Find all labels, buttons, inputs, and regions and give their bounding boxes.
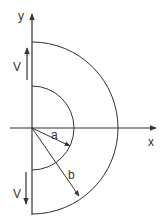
velocity-down-label: V bbox=[13, 187, 21, 201]
velocity-up-label: V bbox=[13, 60, 21, 74]
velocity-up-arrow: V bbox=[13, 48, 27, 80]
y-axis: y bbox=[18, 9, 32, 215]
y-axis-label: y bbox=[18, 9, 24, 23]
x-axis-label: x bbox=[148, 135, 154, 149]
velocity-down-arrow: V bbox=[13, 172, 26, 204]
radius-a-label: a bbox=[51, 128, 58, 142]
radius-b-label: b bbox=[68, 168, 75, 182]
diagram-canvas: y x a b V V bbox=[0, 0, 165, 222]
